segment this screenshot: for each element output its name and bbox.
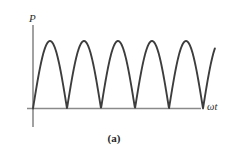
figure-caption: (a) bbox=[0, 133, 228, 144]
x-axis-label: ωt bbox=[207, 102, 218, 113]
y-axis-label: P bbox=[29, 13, 36, 24]
figure-container: P ωt (a) bbox=[0, 0, 228, 155]
power-waveform-curve bbox=[33, 41, 215, 109]
